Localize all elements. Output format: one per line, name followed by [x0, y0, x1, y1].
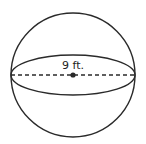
center-point	[70, 72, 75, 77]
sphere-diagram: 9 ft.	[0, 0, 146, 144]
sphere-figure: 9 ft.	[0, 0, 146, 144]
radius-label: 9 ft.	[62, 59, 84, 72]
